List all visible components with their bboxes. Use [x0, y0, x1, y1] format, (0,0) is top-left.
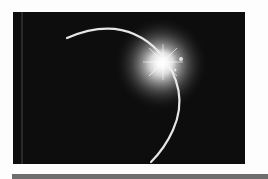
eclipse-photo — [13, 12, 245, 164]
eclipse-illustration — [13, 12, 245, 164]
bottom-divider-bar — [12, 174, 268, 179]
page — [0, 0, 268, 179]
